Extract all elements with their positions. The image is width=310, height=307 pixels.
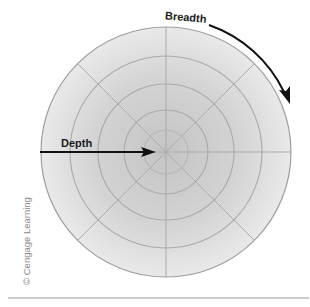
depth-label: Depth: [61, 137, 92, 149]
depth-breadth-diagram: Depth Breadth © Cengage Learning: [0, 0, 310, 307]
copyright-text: © Cengage Learning: [21, 197, 32, 285]
breadth-label: Breadth: [165, 9, 208, 25]
